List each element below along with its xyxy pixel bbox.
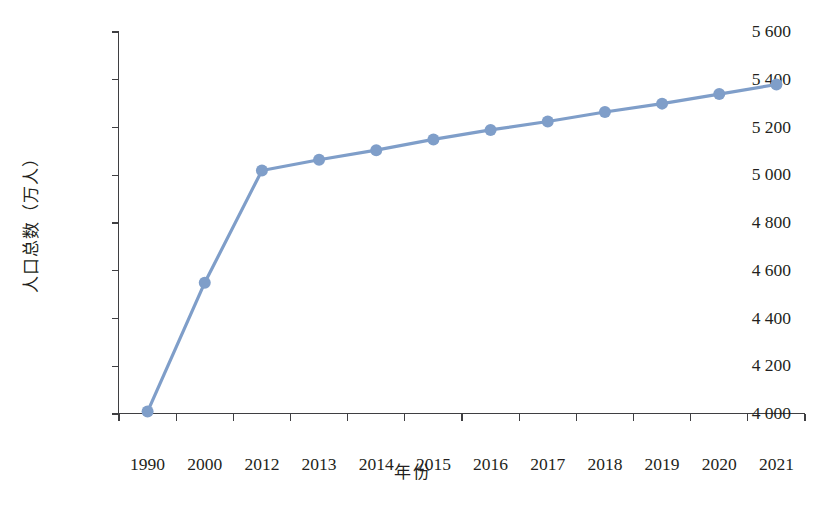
y-axis-title: 人口总数（万人）	[12, 0, 46, 440]
x-axis-tick	[176, 414, 177, 421]
x-axis-tick	[576, 414, 577, 421]
data-point-marker	[713, 88, 725, 100]
data-point-marker	[199, 277, 211, 289]
data-point-marker	[542, 116, 554, 128]
x-axis-tick	[461, 414, 462, 421]
series-polyline	[148, 85, 777, 412]
series-layer	[119, 32, 805, 414]
population-line-chart: 人口总数（万人） 5 6005 4005 2005 0004 8004 6004…	[0, 0, 826, 511]
y-axis-tick	[112, 31, 119, 32]
x-axis-tick	[290, 414, 291, 421]
x-axis-tick	[804, 414, 805, 421]
data-point-marker	[770, 79, 782, 91]
data-point-marker	[656, 98, 668, 110]
x-axis-tick	[633, 414, 634, 421]
x-axis-title: 年份	[0, 458, 826, 483]
y-axis-tick	[112, 79, 119, 80]
data-point-marker	[599, 106, 611, 118]
data-point-marker	[370, 144, 382, 156]
data-point-marker	[256, 164, 268, 176]
data-point-marker	[313, 154, 325, 166]
data-point-marker	[427, 133, 439, 145]
y-axis-tick	[112, 318, 119, 319]
x-axis-tick	[690, 414, 691, 421]
x-axis-tick	[519, 414, 520, 421]
y-axis-tick	[112, 270, 119, 271]
y-axis-tick	[112, 366, 119, 367]
data-point-marker	[142, 406, 154, 418]
x-axis-tick	[347, 414, 348, 421]
y-axis-title-text: 人口总数（万人）	[17, 148, 42, 292]
x-axis-tick	[233, 414, 234, 421]
data-point-marker	[485, 124, 497, 136]
x-axis-tick	[118, 414, 119, 421]
plot-area: 5 6005 4005 2005 0004 8004 6004 4004 200…	[119, 32, 805, 413]
series-markers	[142, 79, 783, 418]
x-axis-tick	[404, 414, 405, 421]
x-axis-tick	[747, 414, 748, 421]
y-axis-tick	[112, 222, 119, 223]
y-axis-tick	[112, 127, 119, 128]
y-axis-tick	[112, 175, 119, 176]
